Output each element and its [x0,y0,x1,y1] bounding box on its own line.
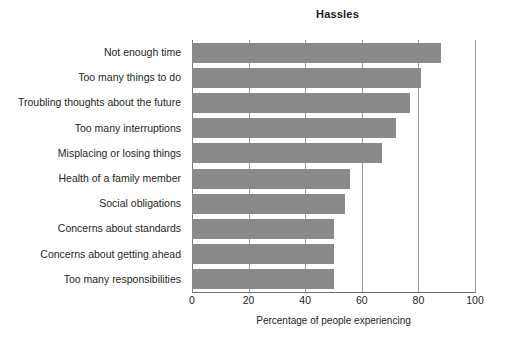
bar [192,169,350,189]
bar-row [192,267,475,292]
bar [192,68,421,88]
x-axis-title: Percentage of people experiencing [192,315,475,326]
y-axis-category-labels: Not enough timeToo many things to doTrou… [0,40,186,292]
x-axis-line [192,292,476,293]
bar-row [192,116,475,141]
y-axis-label: Too many responsibilities [0,267,186,292]
x-tick-label: 60 [356,294,368,306]
y-axis-label: Misplacing or losing things [0,141,186,166]
bar [192,269,334,289]
bar [192,118,396,138]
bar-row [192,242,475,267]
bar-row [192,166,475,191]
y-axis-label: Troubling thoughts about the future [0,90,186,115]
x-tick-label: 100 [466,294,484,306]
x-tick-label: 80 [413,294,425,306]
chart-figure: Hassles Not enough timeToo many things t… [0,0,505,349]
bar [192,93,410,113]
y-axis-label: Health of a family member [0,166,186,191]
bar [192,143,382,163]
y-axis-label: Too many things to do [0,65,186,90]
gridline-100 [475,40,476,292]
y-axis-label: Concerns about standards [0,216,186,241]
bar-row [192,65,475,90]
bar [192,219,334,239]
x-axis-tick-labels: 020406080100 [192,294,475,310]
x-tick-label: 40 [299,294,311,306]
chart-title: Hassles [0,8,505,20]
y-axis-label: Concerns about getting ahead [0,242,186,267]
bar [192,194,345,214]
plot-area [192,40,475,292]
bar-series [192,40,475,292]
y-axis-label: Social obligations [0,191,186,216]
bar-row [192,141,475,166]
y-axis-label: Too many interruptions [0,116,186,141]
x-tick-label: 20 [243,294,255,306]
x-tick-label: 0 [189,294,195,306]
bar [192,244,334,264]
bar-row [192,40,475,65]
bar-row [192,90,475,115]
bar-row [192,216,475,241]
bar-row [192,191,475,216]
y-axis-label: Not enough time [0,40,186,65]
bar [192,43,441,63]
